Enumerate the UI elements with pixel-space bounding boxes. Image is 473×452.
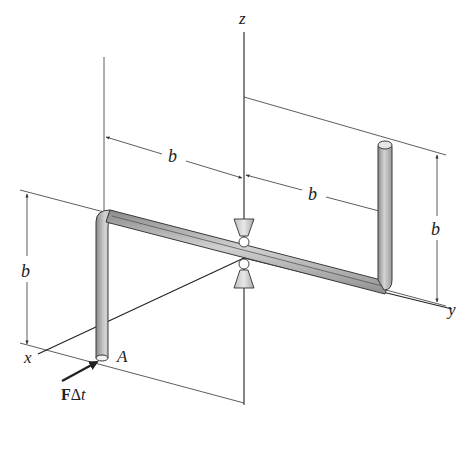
dim-upper-right-b bbox=[326, 197, 383, 212]
point-a-label: A bbox=[116, 347, 128, 366]
dim-label-upper-right: b bbox=[308, 184, 317, 204]
upper-extension-line bbox=[244, 97, 446, 155]
lower-cone bbox=[234, 270, 254, 288]
z-axis-label: z bbox=[238, 9, 246, 28]
lower-ball bbox=[239, 259, 249, 269]
impulse-label-f: F bbox=[61, 386, 71, 403]
dim-left-ext-bottom bbox=[20, 343, 244, 403]
rod-left-leg bbox=[96, 210, 116, 358]
impulse-label-delta: Δ bbox=[71, 386, 81, 403]
dim-left-ext-top bbox=[20, 190, 104, 212]
dim-label-right: b bbox=[431, 219, 440, 239]
rod-impulse-diagram: z b b b b x y A bbox=[0, 0, 473, 452]
impulse-label-t: t bbox=[81, 386, 86, 403]
impulse-label: FΔt bbox=[61, 386, 86, 403]
rod-right-top-cap bbox=[378, 141, 392, 149]
x-axis-label: x bbox=[23, 348, 32, 367]
dim-label-left: b bbox=[21, 261, 30, 281]
dim-label-upper-left: b bbox=[168, 146, 177, 166]
y-axis-label: y bbox=[446, 300, 456, 319]
dim-upper-left-b bbox=[186, 161, 242, 178]
dim-upper-right-a bbox=[246, 175, 302, 190]
impulse-arrow bbox=[62, 362, 97, 381]
dim-upper-left-a bbox=[106, 137, 162, 154]
upper-ball bbox=[239, 237, 249, 247]
upper-cone bbox=[234, 219, 254, 236]
rod-right-leg bbox=[378, 146, 392, 290]
x-axis bbox=[38, 258, 244, 354]
rod-end-a-cap bbox=[96, 355, 108, 361]
